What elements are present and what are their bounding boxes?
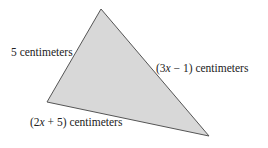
right-label-prefix: (3 [156, 62, 166, 74]
triangle-diagram: 5 centimeters (3x − 1) centimeters (2x +… [0, 0, 268, 148]
bottom-side-label: (2x + 5) centimeters [30, 117, 122, 129]
left-side-label: 5 centimeters [11, 47, 73, 59]
bottom-label-suffix: + 5) centimeters [45, 116, 123, 128]
left-side-label-text: 5 centimeters [11, 46, 73, 58]
right-side-label: (3x − 1) centimeters [156, 63, 248, 75]
right-label-suffix: − 1) centimeters [171, 62, 249, 74]
bottom-label-prefix: (2 [30, 116, 40, 128]
